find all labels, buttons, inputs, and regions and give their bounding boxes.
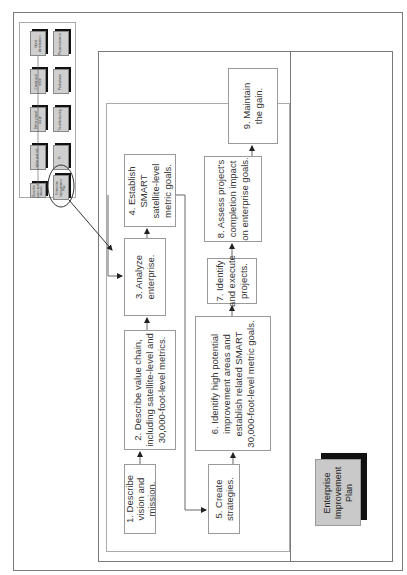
callout-arrow: [69, 200, 112, 250]
connector-return-3: [108, 100, 295, 276]
connector-4-5: [176, 195, 206, 510]
connector-to-3: [108, 195, 122, 276]
connectors: [0, 0, 407, 575]
